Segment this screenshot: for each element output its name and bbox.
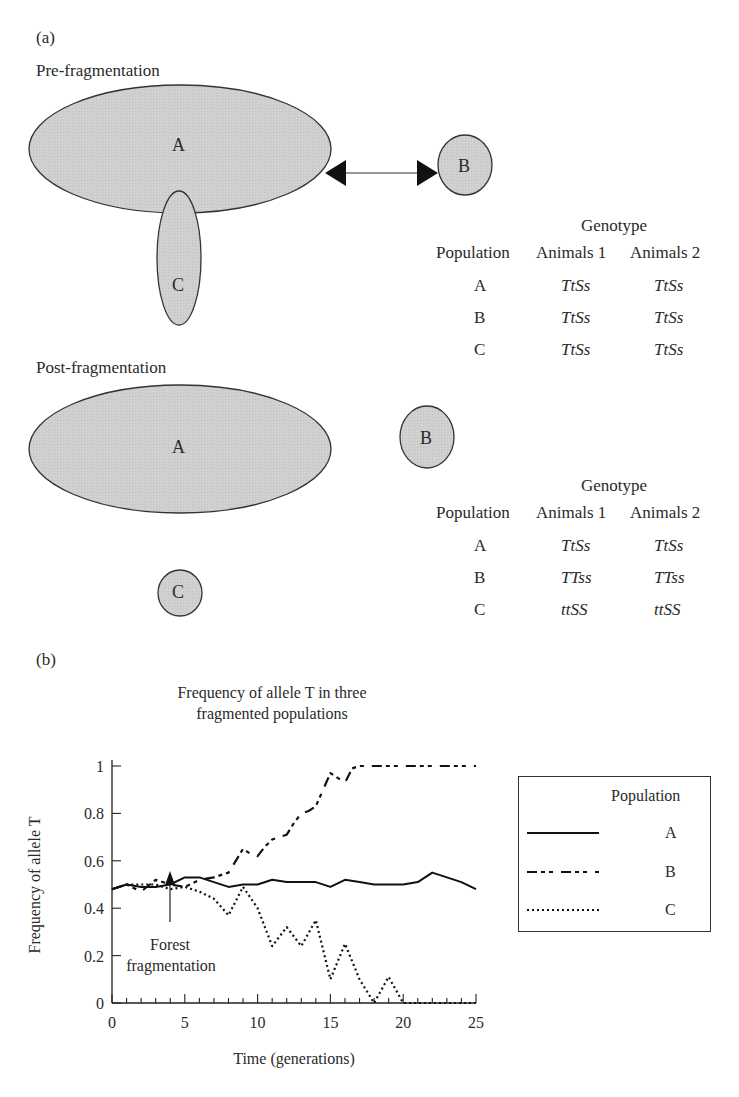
fragmentation-arrow-icon bbox=[165, 871, 175, 922]
x-tick-label: 20 bbox=[395, 1014, 411, 1031]
legend-label-c: C bbox=[665, 901, 676, 919]
chart-title-line-1: Frequency of allele T in three bbox=[122, 682, 422, 703]
y-tick-label: 0.8 bbox=[84, 805, 104, 822]
table-cell-pop: C bbox=[474, 340, 485, 360]
chart-title-line-2: fragmented populations bbox=[122, 703, 422, 724]
table-cell-animals1: ttSS bbox=[561, 600, 587, 620]
pre-label-b: B bbox=[458, 156, 470, 177]
genotype-group-header: Genotype bbox=[581, 476, 647, 496]
post-label-c: C bbox=[172, 582, 184, 603]
pre-label-a: A bbox=[172, 135, 185, 156]
post-label-b: B bbox=[420, 428, 432, 449]
genotype-group-header: Genotype bbox=[581, 216, 647, 236]
table-cell-pop: C bbox=[474, 600, 485, 620]
x-tick-label: 0 bbox=[108, 1014, 116, 1031]
table-cell-pop: B bbox=[474, 308, 485, 328]
table-cell-animals2: TtSs bbox=[654, 340, 683, 360]
chart-axes: 051015202500.20.40.60.81 bbox=[84, 758, 484, 1031]
table-cell-animals1: TtSs bbox=[561, 536, 590, 556]
series-line-b bbox=[112, 766, 476, 892]
legend-swatches bbox=[525, 817, 605, 927]
legend-label-b: B bbox=[665, 863, 676, 881]
column-header-population: Population bbox=[436, 243, 510, 263]
annotation-forest: Forest bbox=[130, 936, 210, 954]
y-tick-label: 1 bbox=[96, 758, 104, 775]
annotation-fragmentation: fragmentation bbox=[116, 957, 226, 975]
post-genotype-table: Genotype Population Animals 1 Animals 2 … bbox=[436, 476, 736, 626]
chart-legend: Population A B C bbox=[518, 776, 711, 932]
gene-flow-arrow-icon bbox=[325, 160, 438, 186]
table-cell-animals2: TtSs bbox=[654, 308, 683, 328]
table-cell-pop: A bbox=[474, 536, 486, 556]
table-cell-animals1: TtSs bbox=[561, 308, 590, 328]
column-header-animals-2: Animals 2 bbox=[630, 503, 700, 523]
y-tick-label: 0.4 bbox=[84, 900, 104, 917]
x-tick-label: 25 bbox=[468, 1014, 484, 1031]
x-axis-label: Time (generations) bbox=[233, 1050, 355, 1068]
table-cell-animals1: TTss bbox=[561, 568, 592, 588]
allele-frequency-chart: 051015202500.20.40.60.81 Frequency of al… bbox=[0, 740, 500, 1097]
x-tick-label: 5 bbox=[181, 1014, 189, 1031]
pre-label-c: C bbox=[172, 275, 184, 296]
column-header-animals-2: Animals 2 bbox=[630, 243, 700, 263]
legend-label-a: A bbox=[665, 824, 677, 842]
table-cell-animals2: TTss bbox=[654, 568, 685, 588]
table-cell-pop: A bbox=[474, 276, 486, 296]
post-fragmentation-title: Post-fragmentation bbox=[36, 358, 166, 378]
table-cell-animals2: TtSs bbox=[654, 536, 683, 556]
y-axis-label: Frequency of allele T bbox=[26, 816, 44, 953]
chart-title: Frequency of allele T in three fragmente… bbox=[122, 682, 422, 724]
y-tick-label: 0.6 bbox=[84, 853, 104, 870]
table-cell-animals2: TtSs bbox=[654, 276, 683, 296]
table-cell-animals2: ttSS bbox=[654, 600, 680, 620]
x-tick-label: 10 bbox=[250, 1014, 266, 1031]
pre-genotype-table: Genotype Population Animals 1 Animals 2 … bbox=[436, 216, 736, 366]
table-cell-animals1: TtSs bbox=[561, 340, 590, 360]
pre-population-c bbox=[157, 191, 201, 325]
column-header-population: Population bbox=[436, 503, 510, 523]
x-tick-label: 15 bbox=[322, 1014, 338, 1031]
table-cell-animals1: TtSs bbox=[561, 276, 590, 296]
post-label-a: A bbox=[172, 437, 185, 458]
column-header-animals-1: Animals 1 bbox=[536, 243, 606, 263]
column-header-animals-1: Animals 1 bbox=[536, 503, 606, 523]
legend-title: Population bbox=[611, 787, 680, 805]
y-tick-label: 0.2 bbox=[84, 948, 104, 965]
table-cell-pop: B bbox=[474, 568, 485, 588]
y-tick-label: 0 bbox=[96, 995, 104, 1012]
panel-b-label: (b) bbox=[36, 650, 56, 670]
